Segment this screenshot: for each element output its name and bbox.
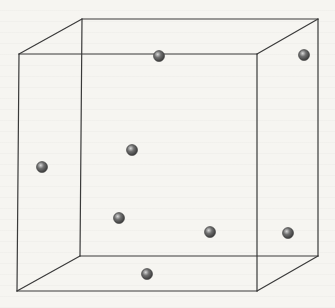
cube-edge-depth-bottom-left — [17, 256, 80, 291]
cube-edge-depth-top-right — [257, 19, 318, 54]
atom-bottom-face-icon — [142, 269, 153, 280]
atom-lower-back-left-icon — [114, 213, 125, 224]
atom-center-back-face-icon — [127, 145, 138, 156]
cube-edges — [17, 19, 318, 291]
cube-unit-cell-diagram — [0, 0, 335, 308]
atom-lower-center-icon — [205, 227, 216, 238]
atom-top-front-edge-icon — [154, 51, 165, 62]
atom-top-right-back-icon — [299, 50, 310, 61]
atoms-group — [37, 50, 310, 280]
cube-edge-depth-bottom-right — [257, 256, 318, 291]
cube-edge-depth-top-left — [19, 19, 82, 54]
atom-left-face-icon — [37, 162, 48, 173]
atom-right-face-icon — [283, 228, 294, 239]
cube-edge-front-left — [17, 54, 19, 291]
